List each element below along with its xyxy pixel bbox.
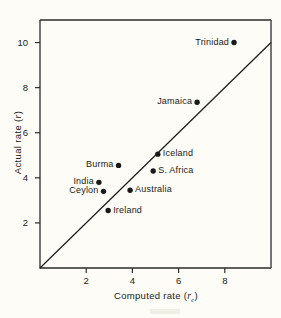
- data-point-marker: [96, 180, 101, 185]
- data-point-marker: [127, 188, 132, 193]
- x-tick-label: 8: [215, 275, 235, 286]
- data-point-marker: [231, 40, 236, 45]
- x-tick-label: 2: [76, 275, 96, 286]
- data-point-label: Iceland: [163, 148, 193, 158]
- tick-marks: [35, 43, 225, 273]
- data-point-label: Ceylon: [69, 185, 98, 195]
- axis-frame: [40, 20, 271, 268]
- x-tick-label: 4: [122, 275, 142, 286]
- page-artifact: [150, 309, 180, 314]
- x-tick-label: 6: [169, 275, 189, 286]
- data-point-marker: [194, 100, 199, 105]
- plot-area-svg: [0, 0, 281, 318]
- data-point-label: Trinidad: [195, 37, 229, 47]
- y-tick-label: 10: [6, 37, 28, 48]
- data-point-marker: [116, 163, 121, 168]
- data-point-marker: [105, 208, 110, 213]
- scatter-chart-figure: 2468102468 TrinidadJamaicaIcelandS. Afri…: [0, 0, 281, 318]
- data-point-marker: [101, 189, 106, 194]
- data-point-label: Jamaica: [157, 96, 192, 106]
- data-point-label: S. Africa: [158, 165, 193, 175]
- data-point-label: Ireland: [113, 205, 142, 215]
- data-point-label: Australia: [135, 184, 172, 194]
- data-point-marker: [150, 168, 155, 173]
- y-tick-label: 2: [6, 217, 28, 228]
- x-axis-label: Computed rate (rc): [40, 290, 272, 303]
- data-point-marker: [155, 151, 160, 156]
- y-axis-label: Actual rate (r): [12, 83, 23, 203]
- data-point-label: Burma: [86, 159, 114, 169]
